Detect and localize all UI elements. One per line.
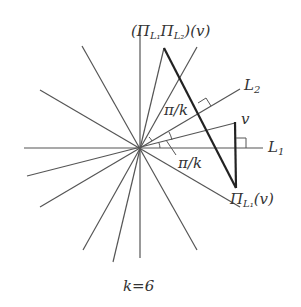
right-angle-markers [198, 98, 246, 148]
L2-sub: 2 [254, 84, 260, 95]
label-angle-lower: π/k [178, 156, 202, 171]
diagram-canvas [0, 0, 301, 307]
angle-lower-text: π/k [178, 154, 202, 172]
label-angle-upper: π/k [164, 103, 188, 118]
composite-open: (Π [131, 22, 150, 40]
label-composite: (ΠL₁ΠL₂)(v) [131, 24, 210, 41]
reflection-diagram: (ΠL₁ΠL₂)(v) L2 L1 v ΠL₁(v) π/k π/k k=6 [0, 0, 301, 307]
right-angle-L2 [198, 98, 211, 106]
label-L1: L1 [268, 140, 284, 157]
thick-line-v-to-proj [235, 122, 236, 188]
proj-sub: L₁ [243, 198, 254, 209]
label-v: v [241, 112, 249, 127]
angle-arc-upper [149, 137, 152, 141]
proj-tail: (v) [254, 190, 274, 208]
proj-letter: Π [230, 190, 243, 208]
composite-mid: Π [161, 22, 174, 40]
composite-tail: )(v) [184, 22, 210, 40]
label-projection: ΠL₁(v) [230, 192, 274, 209]
composite-sub1: L₁ [150, 30, 161, 41]
L1-letter: L [268, 138, 278, 156]
line-v-ray [27, 123, 235, 176]
composite-sub2: L₂ [174, 30, 185, 41]
L1-sub: 1 [278, 146, 284, 157]
angle-arc-lower [159, 143, 160, 148]
L2-letter: L [244, 76, 254, 94]
reflection-lines [24, 28, 263, 262]
caption-text: k=6 [123, 277, 154, 295]
right-angle-L1 [236, 138, 246, 148]
angle-upper-text: π/k [164, 101, 188, 119]
v-letter: v [241, 110, 249, 128]
caption-k: k=6 [123, 279, 154, 294]
line-composite-ray [113, 48, 164, 262]
label-L2: L2 [244, 78, 260, 95]
angle-arc-middle [169, 132, 172, 140]
